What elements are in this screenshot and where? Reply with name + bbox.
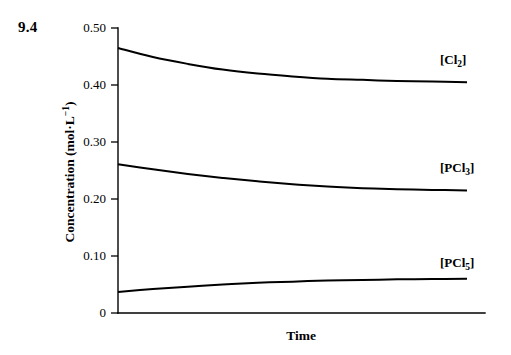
y-tick-label-040: 0.40 xyxy=(83,77,106,92)
series-label-pcl3: [PCl3] xyxy=(440,160,474,177)
y-axis-tick-labels: 0.50 0.40 0.30 0.20 0.10 0 xyxy=(83,20,106,320)
y-tick-label-020: 0.20 xyxy=(83,191,106,206)
series-label-pcl5-close: ] xyxy=(470,255,474,270)
series-curve-pcl3 xyxy=(118,164,467,190)
series-label-cl2: [Cl2] xyxy=(440,52,466,69)
y-axis-title-main: Concentration (mol·L xyxy=(62,116,77,242)
x-axis-title: Time xyxy=(286,328,316,343)
y-axis-title-close: ) xyxy=(62,101,77,106)
y-tick-label-050: 0.50 xyxy=(83,20,106,35)
y-axis-title-exponent: −1 xyxy=(61,106,71,116)
y-tick-label-010: 0.10 xyxy=(83,248,106,263)
series-label-cl2-main: [Cl xyxy=(440,52,458,67)
series-label-pcl5: [PCl5] xyxy=(440,255,474,272)
figure-page: 9.4 0.50 0.40 0.30 0.20 0.10 0 Concentra… xyxy=(0,0,511,355)
series-curve-pcl5 xyxy=(118,279,467,292)
y-tick-label-000: 0 xyxy=(100,305,107,320)
series-label-cl2-close: ] xyxy=(462,52,466,67)
series-label-pcl3-close: ] xyxy=(470,160,474,175)
series-curve-cl2 xyxy=(118,48,467,82)
series-label-pcl5-main: [PCl xyxy=(440,255,466,270)
y-axis-ticks xyxy=(111,28,118,313)
y-axis-title: Concentration (mol·L−1) xyxy=(61,101,77,242)
series-label-pcl3-main: [PCl xyxy=(440,160,466,175)
y-tick-label-030: 0.30 xyxy=(83,134,106,149)
concentration-vs-time-chart: 0.50 0.40 0.30 0.20 0.10 0 Concentration… xyxy=(0,0,511,355)
